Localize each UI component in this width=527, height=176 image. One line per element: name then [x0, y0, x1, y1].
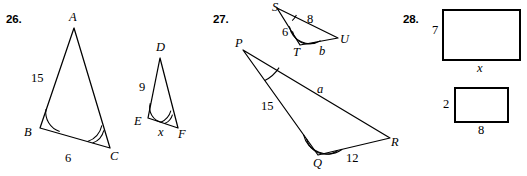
vertex-label-p: P — [235, 37, 243, 50]
rectangle-large-shape — [443, 10, 520, 60]
side-label-pq: 15 — [261, 100, 274, 113]
side-label-su: 8 — [307, 13, 313, 26]
side-label-bc: 6 — [65, 152, 71, 165]
vertex-label-r: R — [391, 136, 399, 149]
rectangle-small — [455, 88, 508, 122]
vertex-label-u: U — [340, 33, 349, 46]
vertex-label-c: C — [110, 150, 118, 163]
triangle-abc-outline — [40, 28, 110, 148]
rectangle-small-width-label: 8 — [478, 124, 484, 137]
rectangle-small-height-label: 2 — [443, 98, 449, 111]
angle-arc-p-1 — [265, 68, 279, 81]
side-label-ef: x — [158, 126, 164, 139]
vertex-label-e: E — [134, 115, 142, 128]
rectangle-large-height-label: 7 — [432, 24, 438, 37]
vertex-label-q: Q — [313, 157, 322, 170]
side-label-de: 9 — [139, 81, 145, 94]
side-label-qr: 12 — [346, 152, 359, 165]
angle-arc-c-2 — [88, 125, 102, 141]
vertex-label-d: D — [156, 41, 165, 54]
triangle-def — [148, 58, 178, 128]
rectangle-small-shape — [455, 88, 508, 122]
angle-arc-b-1 — [46, 109, 60, 132]
side-label-pr: a — [317, 83, 323, 96]
triangle-abc — [40, 28, 110, 148]
vertex-label-f: F — [178, 128, 186, 141]
side-label-ab: 15 — [31, 72, 44, 85]
triangle-def-outline — [148, 58, 178, 128]
vertex-label-b: B — [24, 126, 32, 139]
side-label-tu: b — [319, 45, 325, 58]
side-label-st: 6 — [282, 26, 288, 39]
rectangle-large-width-label: x — [477, 62, 483, 75]
vertex-label-t: T — [293, 46, 300, 59]
figures-canvas — [0, 0, 527, 176]
angle-arc-c-1 — [93, 130, 104, 143]
rectangle-large — [443, 10, 520, 60]
vertex-label-a: A — [69, 11, 77, 24]
vertex-label-s: S — [272, 1, 278, 14]
geometry-worksheet: 26. 27. 28. — [0, 0, 527, 176]
